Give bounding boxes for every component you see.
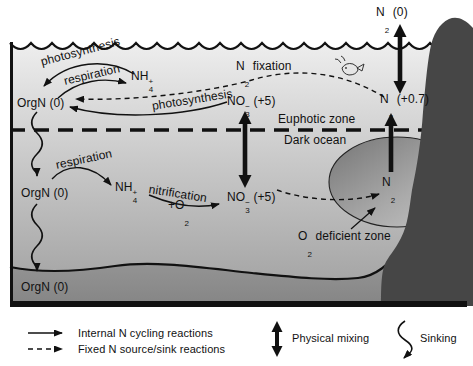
nh4-deep-label: NH+4 <box>115 180 137 204</box>
no3-deep-label: NO−3 (+5) <box>227 190 276 214</box>
orgn-euphotic-label: OrgN (0) <box>17 96 64 110</box>
bottom-border <box>10 301 467 307</box>
dark-ocean-label: Dark ocean <box>284 133 346 147</box>
legend-fixed-label: Fixed N source/sink reactions <box>78 343 225 356</box>
legend-sinking-label: Sinking <box>420 332 457 345</box>
n2-subsurface-label: N2 (+0.7) <box>380 92 429 121</box>
n2-deep-label: N2 <box>382 175 395 204</box>
orgn-sediment-label: OrgN (0) <box>21 280 68 294</box>
legend-mixing-arrow-icon <box>272 321 283 357</box>
left-border <box>10 42 13 306</box>
orgn-deep-label: OrgN (0) <box>21 186 68 200</box>
n2-atmosphere-label: N2 (0) <box>376 5 408 34</box>
n2-fixation-label: N2 fixation <box>236 59 292 88</box>
legend-sinking-squiggle-icon <box>398 321 412 358</box>
nitrogen-cycle-diagram: N2 (0) photosynthesis respiration NH+4 N… <box>0 0 473 366</box>
legend-mixing-label: Physical mixing <box>292 332 369 345</box>
legend-internal-label: Internal N cycling reactions <box>78 327 213 340</box>
euphotic-zone-label: Euphotic zone <box>278 112 355 126</box>
no3-euphotic-label: NO−3 (+5) <box>227 94 276 118</box>
nh4-surface-label: NH+4 <box>131 69 153 93</box>
o2-deficient-zone-label: O2 deficient zone <box>298 229 391 258</box>
plus-o2-label: +O2 <box>168 198 189 227</box>
